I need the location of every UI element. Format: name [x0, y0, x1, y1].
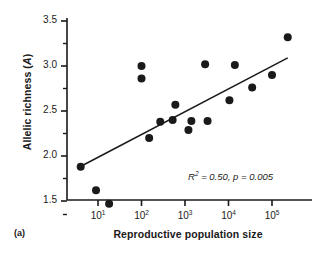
- y-axis-tick-label: 1.5: [27, 194, 57, 205]
- regression-trendline: [83, 58, 287, 165]
- scatter-point: [138, 62, 146, 70]
- x-axis-label: Reproductive population size: [68, 228, 308, 240]
- scatter-point: [77, 163, 85, 171]
- y-axis-tick-label: 2.0: [27, 149, 57, 160]
- scatter-point: [201, 60, 209, 68]
- x-axis-tick-label: 104: [209, 209, 249, 221]
- scatter-point: [248, 84, 256, 92]
- scatter-point: [231, 61, 239, 69]
- scatter-point: [225, 96, 233, 104]
- scatter-point: [138, 75, 146, 83]
- scatter-point: [284, 33, 292, 41]
- y-axis-tick-label: 3.0: [27, 59, 57, 70]
- x-axis-tick-label: 102: [122, 209, 162, 221]
- scatter-point: [156, 118, 164, 126]
- scatter-point: [204, 117, 212, 125]
- scatter-point: [92, 186, 100, 194]
- y-axis-tick-label: 2.5: [27, 104, 57, 115]
- scatter-point: [145, 134, 153, 142]
- x-axis-tick-label: 101: [78, 209, 118, 221]
- scatter-point: [171, 101, 179, 109]
- scatter-point: [187, 117, 195, 125]
- figure-panel-a: Allelic richness (A) Reproductive popula…: [0, 0, 324, 256]
- scatter-point: [105, 200, 113, 208]
- x-axis-tick-label: 105: [252, 209, 292, 221]
- y-axis-tick-label: 3.5: [27, 14, 57, 25]
- statistics-annotation: R2 = 0.50, p = 0.005: [188, 170, 273, 182]
- scatter-point: [184, 126, 192, 134]
- scatter-point: [169, 116, 177, 124]
- scatter-point: [268, 71, 276, 79]
- panel-label: (a): [14, 228, 25, 238]
- x-axis-tick-label: 103: [165, 209, 205, 221]
